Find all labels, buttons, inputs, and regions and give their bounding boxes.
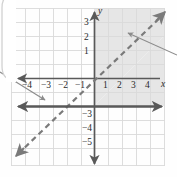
- x-axis-name: x: [161, 80, 165, 90]
- x-tick-label-5: 2: [117, 81, 122, 91]
- y-tick-label-4: −4: [82, 124, 92, 134]
- y-tick-label-5: −5: [82, 138, 92, 148]
- x-tick-label-2: −2: [58, 81, 68, 91]
- y-tick-label-3: −3: [82, 110, 92, 120]
- graph-figure: −4−3−2−11234 321−3−4−5 xy: [0, 0, 177, 177]
- x-tick-label-7: 4: [145, 81, 150, 91]
- x-tick-label-4: 1: [103, 81, 108, 91]
- y-tick-label-2: 1: [84, 47, 89, 57]
- x-tick-label-6: 3: [131, 81, 136, 91]
- y-tick-label-0: 3: [84, 18, 89, 28]
- x-tick-label-1: −3: [41, 81, 51, 91]
- y-tick-label-1: 2: [84, 33, 89, 43]
- y-axis-name: y: [98, 7, 102, 17]
- x-tick-label-3: −1: [75, 81, 85, 91]
- x-tick-label-0: −4: [22, 81, 32, 91]
- callout-box-fill: [6, 0, 16, 82]
